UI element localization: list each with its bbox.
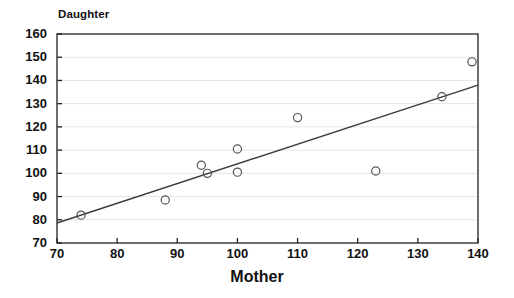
axis-ticks <box>57 34 478 243</box>
data-points <box>77 58 476 219</box>
scatter-plot-figure: Daughter 708090100110120130140150160 708… <box>0 0 514 298</box>
axis-frame <box>57 34 478 243</box>
plot-canvas <box>0 0 514 298</box>
regression-line <box>57 85 478 223</box>
x-axis-title: Mother <box>0 268 514 286</box>
gridlines <box>57 57 478 220</box>
